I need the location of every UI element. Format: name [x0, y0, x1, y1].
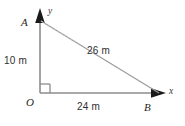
x-axis-label: x: [169, 87, 173, 97]
y-axis-arrowhead-icon: [35, 8, 45, 23]
measurement-vertical-leg: 10 m: [4, 56, 27, 66]
point-label-b: B: [144, 102, 151, 113]
point-label-a: A: [21, 17, 28, 28]
measurement-hypotenuse: 26 m: [87, 46, 110, 56]
geometry-diagram-canvas: A y O B x 10 m 26 m 24 m: [0, 0, 185, 126]
origin-label: O: [26, 97, 34, 108]
y-axis-label: y: [48, 7, 52, 17]
measurement-horizontal-leg: 24 m: [77, 102, 100, 112]
